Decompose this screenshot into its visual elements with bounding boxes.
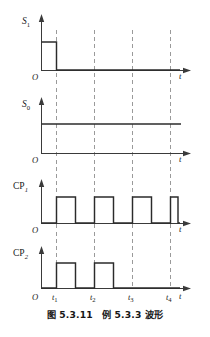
- cp2-axis-variable-label: t: [179, 291, 182, 301]
- cp1-origin-label: O: [32, 225, 38, 235]
- s0-origin-label: O: [32, 155, 38, 165]
- panel-cp2: CP2 O t t1 t2 t3 t4: [13, 246, 191, 303]
- panel-cp1: CP1 O t: [13, 179, 191, 235]
- tick-label-t4: t4: [166, 293, 172, 303]
- figure-caption-text: 例 5.3.3 波形: [102, 309, 164, 320]
- cp1-signal-label: CP1: [13, 181, 28, 193]
- cp2-signal-label: CP2: [13, 248, 29, 260]
- s1-origin-label: O: [32, 72, 38, 82]
- figure-timing-diagram: S1 O t S0 O t CP1 O t: [0, 0, 210, 337]
- tick-label-t3: t3: [128, 293, 134, 303]
- s0-x-axis-arrow-icon: [183, 151, 191, 156]
- x-axis-tick-labels: t1 t2 t3 t4: [52, 293, 172, 303]
- s0-y-axis-arrow-icon: [39, 97, 44, 105]
- timing-diagram-canvas: S1 O t S0 O t CP1 O t: [0, 0, 210, 337]
- cp1-waveform: [42, 197, 181, 223]
- cp2-origin-label: O: [32, 292, 38, 302]
- cp1-y-axis-arrow-icon: [39, 179, 44, 187]
- s1-signal-label: S1: [22, 16, 30, 28]
- cp2-y-axis-arrow-icon: [39, 246, 44, 254]
- s0-axis-variable-label: t: [179, 154, 182, 164]
- reference-dashed-lines: [57, 30, 171, 289]
- s1-x-axis-arrow-icon: [183, 68, 191, 73]
- panel-s1: S1 O t: [22, 14, 191, 82]
- tick-label-t1: t1: [52, 293, 58, 303]
- tick-label-t2: t2: [90, 293, 96, 303]
- cp1-axis-variable-label: t: [179, 224, 182, 234]
- figure-caption-number: 图 5.3.11: [47, 309, 93, 320]
- s1-axis-variable-label: t: [179, 71, 182, 81]
- figure-caption: 图 5.3.11例 5.3.3 波形: [0, 307, 210, 321]
- cp2-waveform: [42, 263, 181, 288]
- s1-y-axis-arrow-icon: [39, 14, 44, 22]
- cp1-x-axis-arrow-icon: [183, 221, 191, 226]
- s0-signal-label: S0: [22, 99, 31, 111]
- panel-s0: S0 O t: [22, 97, 191, 165]
- cp2-x-axis-arrow-icon: [183, 286, 191, 291]
- s1-waveform: [42, 42, 181, 70]
